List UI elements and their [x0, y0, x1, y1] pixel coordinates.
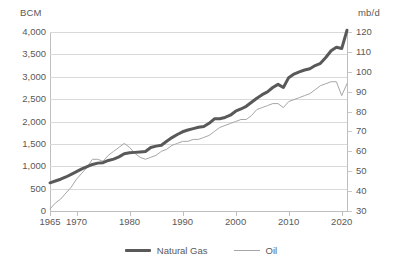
oil-line [50, 82, 347, 209]
chart-legend: Natural Gas Oil [0, 240, 402, 260]
left-axis-tick-label: 2,000 [22, 116, 46, 127]
right-axis-tick-label: 80 [356, 106, 367, 117]
left-axis-tick-label: 3,500 [22, 48, 46, 59]
right-axis-tick-label: 50 [356, 165, 367, 176]
x-axis-tick-mark [50, 212, 51, 216]
legend-label-natural-gas: Natural Gas [157, 245, 208, 256]
right-axis-tick-label: 60 [356, 145, 367, 156]
right-axis-unit-label: mb/d [358, 7, 380, 18]
right-axis-tick-label: 90 [356, 86, 367, 97]
x-axis-tick-label: 2010 [269, 216, 309, 227]
oil-line-swatch-icon [234, 250, 260, 251]
right-axis-tick-label: 110 [356, 46, 371, 57]
right-axis-tick-label: 40 [356, 185, 367, 196]
legend-item-natural-gas: Natural Gas [125, 245, 208, 256]
x-axis-tick-label: 1970 [57, 216, 97, 227]
left-axis-tick-label: 2,500 [22, 93, 46, 104]
x-axis-tick-mark [183, 212, 184, 216]
right-axis-tick-label: 30 [356, 205, 367, 216]
left-axis-tick-label: 4,000 [22, 26, 46, 37]
left-axis-tick-label: 0 [41, 205, 46, 216]
x-axis-tick-label: 2020 [322, 216, 362, 227]
right-axis-tick-mark [348, 32, 352, 33]
plot-area [50, 32, 347, 211]
x-axis-tick-label: 2000 [216, 216, 256, 227]
right-axis-tick-mark [348, 191, 352, 192]
left-axis-tick-label: 1,000 [22, 160, 46, 171]
right-axis-tick-label: 120 [356, 26, 372, 37]
right-axis-tick-label: 100 [356, 66, 372, 77]
x-axis-tick-mark [130, 212, 131, 216]
left-axis-tick-label: 3,000 [22, 71, 46, 82]
right-axis-tick-mark [348, 131, 352, 132]
natural-gas-line-swatch-icon [125, 249, 151, 252]
natural-gas-line [50, 30, 347, 183]
x-axis-tick-mark [289, 212, 290, 216]
left-axis-unit-label: BCM [20, 7, 42, 18]
x-axis-tick-label: 1990 [163, 216, 203, 227]
right-axis-tick-label: 70 [356, 125, 367, 136]
left-axis-tick-label: 500 [30, 183, 46, 194]
chart-container: BCM mb/d 05001,0001,5002,0002,5003,0003,… [0, 0, 402, 266]
right-axis-tick-mark [348, 171, 352, 172]
right-axis-line [347, 32, 348, 212]
legend-item-oil: Oil [234, 245, 278, 256]
legend-label-oil: Oil [266, 245, 278, 256]
series-lines [50, 32, 347, 211]
right-axis-tick-mark [348, 72, 352, 73]
x-axis-tick-mark [77, 212, 78, 216]
right-axis-tick-mark [348, 151, 352, 152]
x-axis-tick-mark [236, 212, 237, 216]
x-axis-tick-mark [342, 212, 343, 216]
x-axis-tick-label: 1980 [110, 216, 150, 227]
right-axis-tick-mark [348, 52, 352, 53]
right-axis-tick-mark [348, 92, 352, 93]
right-axis-tick-mark [348, 211, 352, 212]
x-axis-line [50, 211, 348, 212]
left-axis-tick-label: 1,500 [22, 138, 46, 149]
right-axis-tick-mark [348, 112, 352, 113]
